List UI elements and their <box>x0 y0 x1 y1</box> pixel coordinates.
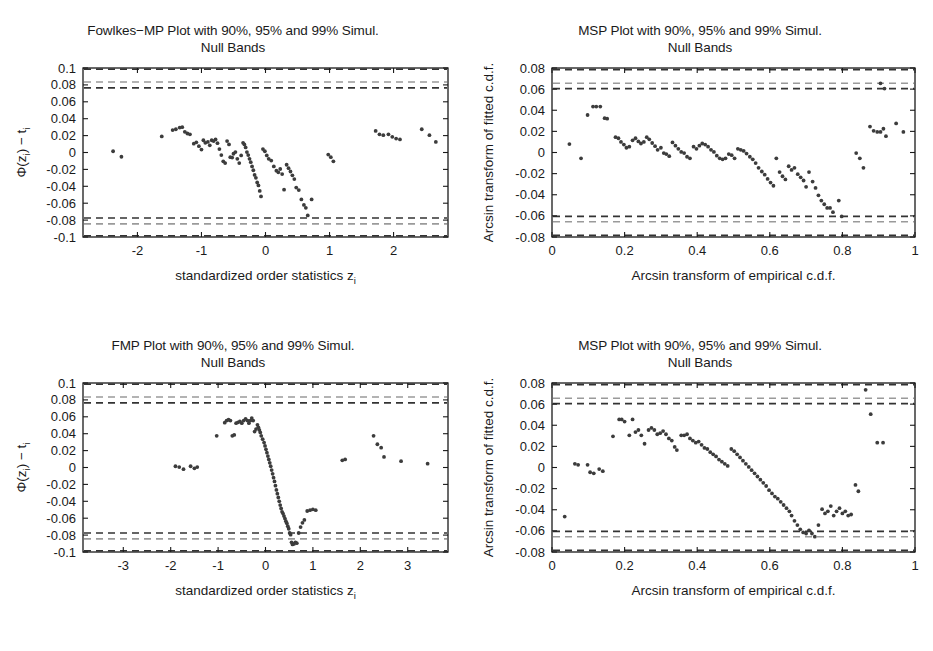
data-point <box>799 175 803 179</box>
svg-text:0.08: 0.08 <box>520 61 545 76</box>
data-point <box>788 509 792 513</box>
data-point <box>273 480 277 484</box>
data-point <box>271 472 275 476</box>
data-point <box>249 160 253 164</box>
data-point <box>811 180 815 184</box>
data-point <box>881 441 885 445</box>
data-point <box>214 138 218 142</box>
data-point <box>426 462 430 466</box>
data-point <box>219 153 223 157</box>
data-point <box>272 476 276 480</box>
data-point <box>266 454 270 458</box>
svg-text:0: 0 <box>69 145 76 160</box>
data-point <box>875 130 879 134</box>
data-point <box>200 148 204 152</box>
svg-text:0.2: 0.2 <box>616 558 634 573</box>
data-point <box>250 165 254 169</box>
data-point <box>733 156 737 160</box>
data-point <box>215 434 219 438</box>
x-axis-title: Arcsin transform of empirical c.d.f. <box>631 583 835 598</box>
data-point <box>882 127 886 131</box>
data-point <box>802 179 806 183</box>
data-point <box>276 496 280 500</box>
data-point <box>745 152 749 156</box>
data-point <box>674 144 678 148</box>
data-point <box>643 442 647 446</box>
data-point <box>750 468 754 472</box>
data-point <box>726 464 730 468</box>
data-point <box>793 166 797 170</box>
data-point <box>180 125 184 129</box>
data-point <box>278 167 282 171</box>
data-point <box>849 513 853 517</box>
data-point <box>837 199 841 203</box>
svg-text:0.02: 0.02 <box>520 439 545 454</box>
svg-text:-0.04: -0.04 <box>515 187 545 202</box>
data-point <box>872 129 876 133</box>
axes-frame <box>83 383 448 552</box>
svg-text:-3: -3 <box>118 558 130 573</box>
null-bands <box>553 385 914 551</box>
svg-text:0.02: 0.02 <box>51 128 76 143</box>
svg-text:-0.1: -0.1 <box>54 230 76 245</box>
data-point <box>822 202 826 206</box>
data-point <box>299 525 303 529</box>
svg-text:0.4: 0.4 <box>688 243 706 258</box>
data-point <box>617 136 621 140</box>
svg-text:2: 2 <box>357 558 364 573</box>
svg-text:0.08: 0.08 <box>51 77 76 92</box>
data-point <box>375 442 379 446</box>
data-point <box>831 210 835 214</box>
data-point <box>390 135 394 139</box>
svg-text:0.2: 0.2 <box>616 243 634 258</box>
data-point <box>763 173 767 177</box>
svg-text:-0.02: -0.02 <box>515 166 545 181</box>
data-point <box>248 157 252 161</box>
svg-text:-0.1: -0.1 <box>54 545 76 560</box>
data-point <box>601 469 605 473</box>
data-point <box>206 140 210 144</box>
svg-text:-0.08: -0.08 <box>46 213 76 228</box>
data-point <box>796 172 800 176</box>
data-point <box>685 432 689 436</box>
data-point <box>598 105 602 109</box>
svg-text:0: 0 <box>548 558 555 573</box>
data-point <box>627 433 631 437</box>
data-point <box>239 154 243 158</box>
figure-root: Fowlkes−MP Plot with 90%, 95% and 99% Si… <box>0 0 933 651</box>
data-point <box>647 137 651 141</box>
data-point <box>770 491 774 495</box>
data-point <box>838 506 842 510</box>
data-point <box>864 388 868 392</box>
data-point <box>225 139 229 143</box>
data-point <box>274 484 278 488</box>
svg-text:0: 0 <box>69 460 76 475</box>
data-point <box>807 528 811 532</box>
data-point <box>779 500 783 504</box>
data-point <box>111 149 115 153</box>
data-point <box>276 170 280 174</box>
data-point <box>160 135 164 139</box>
data-point <box>868 125 872 129</box>
data-point <box>174 127 178 131</box>
data-point <box>724 156 728 160</box>
x-axis-title: standardized order statistics zi <box>175 583 356 601</box>
data-point <box>817 523 821 527</box>
data-point <box>120 155 124 159</box>
data-point <box>835 509 839 513</box>
scatter-plot-msp-top: 00.20.40.60.81-0.08-0.06-0.04-0.0200.020… <box>467 22 933 322</box>
axes-frame <box>552 68 915 237</box>
data-point <box>251 168 255 172</box>
data-point <box>623 420 627 424</box>
data-point <box>894 122 898 126</box>
data-point <box>742 149 746 153</box>
data-point <box>769 181 773 185</box>
data-point <box>798 527 802 531</box>
data-point <box>232 433 236 437</box>
data-point <box>807 170 811 174</box>
data-point <box>875 441 879 445</box>
data-point <box>856 489 860 493</box>
y-axis-title: Φ(zi) − ti <box>14 443 32 493</box>
svg-text:0.02: 0.02 <box>520 124 545 139</box>
data-point <box>688 156 692 160</box>
